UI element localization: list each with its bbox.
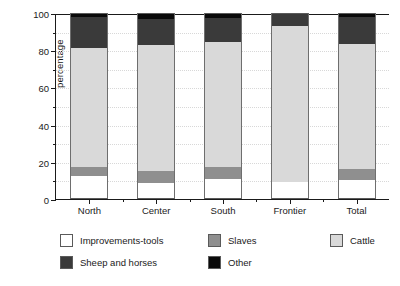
x-axis-label-center: Center xyxy=(142,205,171,216)
bar-segment xyxy=(271,182,309,199)
chart-legend: Improvements-toolsSlavesCattleSheep and … xyxy=(60,229,380,273)
bar-segment xyxy=(70,13,108,17)
x-axis-tick xyxy=(357,199,358,204)
y-axis-tick-label: 60 xyxy=(19,83,49,94)
legend-row: Improvements-toolsSlavesCattle xyxy=(60,229,380,251)
bar-segment xyxy=(338,169,376,180)
stacked-bar-chart: percentage 020406080100NorthCenterSouthF… xyxy=(0,0,400,286)
bar-segment xyxy=(70,48,108,167)
legend-item: Sheep and horses xyxy=(60,256,157,269)
y-axis-tick xyxy=(51,163,56,164)
bar-segment xyxy=(137,19,175,45)
y-axis-tick-label: 20 xyxy=(19,157,49,168)
legend-swatch-icon xyxy=(60,234,73,247)
y-axis-tick xyxy=(51,88,56,89)
legend-label: Other xyxy=(228,257,252,268)
bar-total xyxy=(338,13,376,199)
x-axis-tick-minor xyxy=(256,199,257,202)
bar-segment xyxy=(338,17,376,44)
bar-segment xyxy=(70,176,108,199)
plot-area: percentage 020406080100NorthCenterSouthF… xyxy=(55,14,389,200)
y-axis-tick-minor xyxy=(53,107,56,108)
bar-segment xyxy=(338,180,376,199)
bar-segment xyxy=(271,14,309,26)
bar-frontier xyxy=(271,13,309,199)
bar-segment xyxy=(338,13,376,17)
x-axis-label-south: South xyxy=(211,205,236,216)
bar-segment xyxy=(137,45,175,171)
y-axis-tick xyxy=(51,51,56,52)
legend-label: Sheep and horses xyxy=(80,257,157,268)
x-axis-tick-minor xyxy=(323,199,324,202)
x-axis-label-total: Total xyxy=(347,205,367,216)
bar-segment xyxy=(204,13,242,18)
x-axis-tick xyxy=(89,199,90,204)
bar-south xyxy=(204,13,242,199)
legend-swatch-icon xyxy=(60,256,73,269)
y-axis-tick-label: 0 xyxy=(19,195,49,206)
y-axis-tick-minor xyxy=(53,181,56,182)
legend-item: Cattle xyxy=(330,234,375,247)
legend-swatch-icon xyxy=(330,234,343,247)
bar-north xyxy=(70,13,108,199)
bar-segment xyxy=(137,171,175,183)
x-axis-tick-minor xyxy=(190,199,191,202)
legend-item: Slaves xyxy=(208,234,257,247)
bar-segment xyxy=(204,18,242,42)
legend-label: Improvements-tools xyxy=(80,235,163,246)
y-axis-tick-minor xyxy=(53,33,56,34)
x-axis-tick xyxy=(290,199,291,204)
legend-swatch-icon xyxy=(208,256,221,269)
bar-segment xyxy=(137,183,175,199)
bar-segment xyxy=(338,44,376,170)
y-axis-tick-label: 100 xyxy=(19,9,49,20)
y-axis-tick-minor xyxy=(53,70,56,71)
y-axis-tick-label: 40 xyxy=(19,120,49,131)
y-axis-tick-label: 80 xyxy=(19,46,49,57)
bar-segment xyxy=(70,17,108,49)
bar-segment xyxy=(271,26,309,182)
bar-segment xyxy=(271,13,309,14)
x-axis-label-north: North xyxy=(78,205,101,216)
y-axis-tick-minor xyxy=(53,144,56,145)
y-axis-tick xyxy=(51,200,56,201)
bar-center xyxy=(137,13,175,199)
bar-segment xyxy=(137,13,175,19)
legend-swatch-icon xyxy=(208,234,221,247)
x-axis-tick xyxy=(223,199,224,204)
legend-item: Improvements-tools xyxy=(60,234,163,247)
legend-row: Sheep and horsesOther xyxy=(60,251,380,273)
plot-inner xyxy=(56,14,389,199)
bar-segment xyxy=(204,167,242,178)
bar-segment xyxy=(204,179,242,199)
bar-segment xyxy=(204,42,242,168)
bar-segment xyxy=(70,167,108,175)
legend-label: Slaves xyxy=(228,235,257,246)
y-axis-tick xyxy=(51,14,56,15)
x-axis-tick xyxy=(156,199,157,204)
legend-label: Cattle xyxy=(350,235,375,246)
legend-item: Other xyxy=(208,256,252,269)
y-axis-tick xyxy=(51,126,56,127)
x-axis-tick-minor xyxy=(123,199,124,202)
x-axis-label-frontier: Frontier xyxy=(273,205,306,216)
